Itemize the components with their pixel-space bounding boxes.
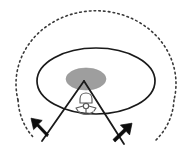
central-mass-ellipse xyxy=(66,68,106,90)
beam-spread-diagram xyxy=(0,0,194,167)
diagram-canvas: Anatomical beam-spread diagram xyxy=(0,0,194,167)
